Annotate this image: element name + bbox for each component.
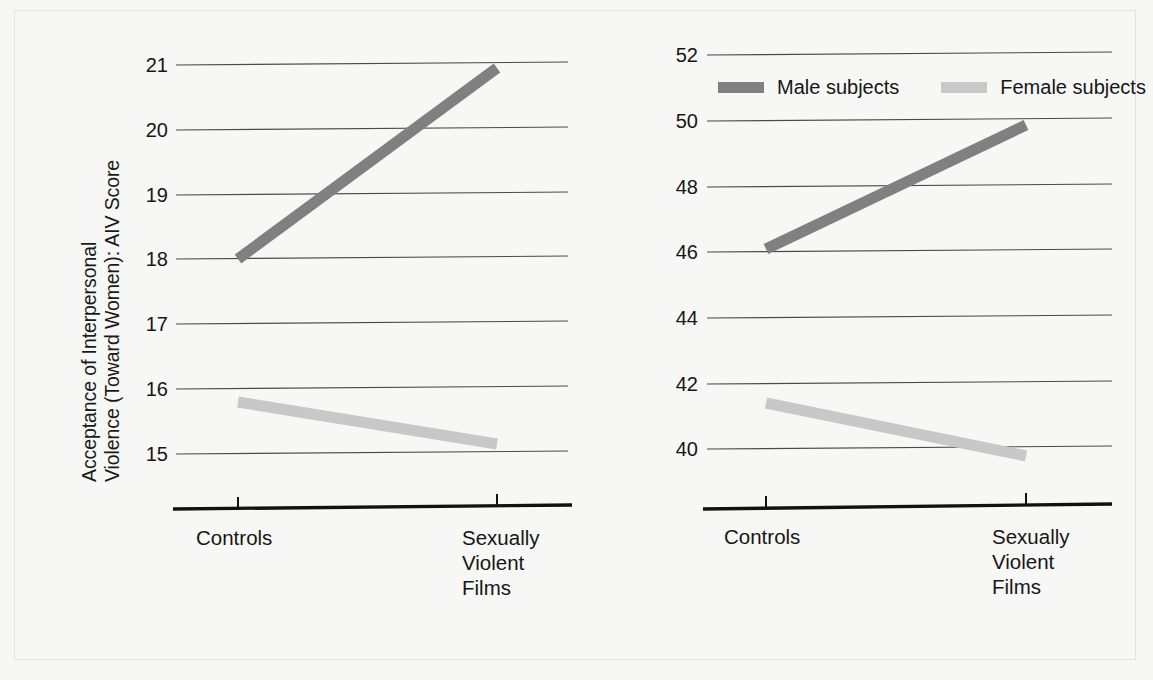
gridline-21 <box>176 62 568 65</box>
legend-label-male: Male subjects <box>777 76 899 99</box>
aiv-ytick-label-20: 20 <box>128 120 168 140</box>
aiv-y-axis-title-line1: Acceptance of Interpersonal <box>78 242 101 482</box>
gridline-19 <box>176 192 568 195</box>
gridline-52 <box>707 52 1112 55</box>
gridline-50 <box>707 118 1112 121</box>
aiv-ytick-label-15: 15 <box>128 444 168 464</box>
gridline-15 <box>176 451 568 454</box>
gridline-44 <box>707 315 1112 318</box>
gridline-42 <box>707 381 1112 384</box>
rma-xlabel-films: Sexually Violent Films <box>992 524 1070 599</box>
legend-item-male-subjects: Male subjects <box>718 76 899 99</box>
rma-ytick-label-44: 44 <box>658 308 698 328</box>
rma-ytick-label-46: 46 <box>658 242 698 262</box>
aiv-ytick-label-16: 16 <box>128 379 168 399</box>
rma-male-line <box>766 125 1026 249</box>
gridline-20 <box>176 127 568 130</box>
legend-item-female-subjects: Female subjects <box>941 76 1146 99</box>
rma-ytick-label-42: 42 <box>658 374 698 394</box>
gridline-16 <box>176 386 568 389</box>
aiv-xlabel-films: Sexually Violent Films <box>462 525 540 600</box>
aiv-male-line <box>238 68 497 259</box>
rma-plot-area <box>600 0 1153 680</box>
rma-ytick-label-52: 52 <box>658 45 698 65</box>
rma-chart-panel: Rape Myth Acceptance: RMA Score 52 50 48… <box>600 0 1153 680</box>
rma-ytick-label-48: 48 <box>658 177 698 197</box>
aiv-y-axis-title-line2: Violence (Toward Women): AIV Score <box>101 160 124 482</box>
legend-label-female: Female subjects <box>1000 76 1146 99</box>
gridline-40 <box>707 446 1112 449</box>
aiv-ytick-label-17: 17 <box>128 314 168 334</box>
aiv-ytick-label-18: 18 <box>128 249 168 269</box>
gridline-18 <box>176 256 568 259</box>
aiv-gridlines <box>176 62 568 454</box>
legend-swatch-male <box>718 82 764 93</box>
aiv-xlabel-controls: Controls <box>196 525 272 550</box>
legend-swatch-female <box>941 82 987 93</box>
aiv-ytick-label-21: 21 <box>128 55 168 75</box>
gridline-17 <box>176 321 568 324</box>
aiv-x-axis <box>173 505 572 509</box>
rma-ytick-label-50: 50 <box>658 111 698 131</box>
aiv-female-line <box>238 402 497 444</box>
rma-xlabel-controls: Controls <box>724 524 800 549</box>
figure-canvas: Acceptance of Interpersonal Violence (To… <box>0 0 1153 680</box>
rma-x-axis <box>703 504 1112 509</box>
rma-ytick-label-40: 40 <box>658 439 698 459</box>
aiv-ytick-label-19: 19 <box>128 185 168 205</box>
aiv-chart-panel: Acceptance of Interpersonal Violence (To… <box>0 0 600 680</box>
chart-legend: Male subjects Female subjects <box>718 76 1146 99</box>
